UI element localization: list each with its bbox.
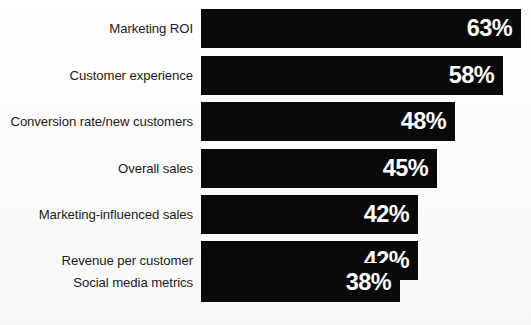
bar-segment[interactable]: 42% <box>201 195 418 234</box>
category-label: Customer experience <box>0 69 193 82</box>
bar-container: 45% <box>201 149 437 188</box>
bar-value-label: 45% <box>383 157 428 181</box>
chart-row: Marketing-influenced sales 42% <box>0 195 531 234</box>
bar-container: 48% <box>201 102 455 141</box>
bar-value-label: 48% <box>401 110 446 134</box>
chart-row: Overall sales 45% <box>0 149 531 188</box>
category-label: Conversion rate/new customers <box>0 115 193 128</box>
bar-segment[interactable]: 48% <box>201 102 455 141</box>
chart-row: Marketing ROI 63% <box>0 9 531 48</box>
category-label: Social media metrics <box>0 276 193 289</box>
bar-segment[interactable]: 58% <box>201 56 503 95</box>
bar-container: 58% <box>201 56 503 95</box>
bar-container: 42% <box>201 195 418 234</box>
bar-value-label: 38% <box>346 271 391 295</box>
category-label: Marketing ROI <box>0 22 193 35</box>
bar-segment[interactable]: 63% <box>201 9 521 48</box>
chart-row: Social media metrics 38% <box>0 263 531 302</box>
category-label: Overall sales <box>0 162 193 175</box>
category-label: Marketing-influenced sales <box>0 208 193 221</box>
bar-value-label: 58% <box>449 64 494 88</box>
bar-value-label: 42% <box>364 203 409 227</box>
bar-container: 38% <box>201 263 400 302</box>
bar-segment[interactable]: 38% <box>201 263 400 302</box>
bar-segment[interactable]: 45% <box>201 149 437 188</box>
chart-row: Conversion rate/new customers 48% <box>0 102 531 141</box>
bar-chart: Marketing ROI 63% Customer experience 58… <box>0 0 531 325</box>
chart-row: Customer experience 58% <box>0 56 531 95</box>
bar-value-label: 63% <box>467 17 512 41</box>
bar-container: 63% <box>201 9 521 48</box>
